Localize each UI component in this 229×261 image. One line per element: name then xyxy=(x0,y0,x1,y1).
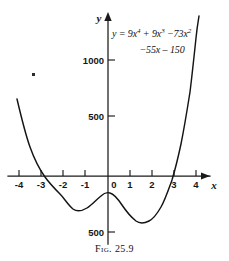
x-axis-label: x xyxy=(210,179,217,191)
equation-line-1: y = 9x4 + 9x3 −73x2 xyxy=(112,28,226,40)
x-tick-label-neg1: -1 xyxy=(81,179,90,190)
x-tick-label-1: 1 xyxy=(127,179,133,190)
y-tick-label-neg500: 500 xyxy=(88,227,104,238)
y-tick-label-500: 500 xyxy=(88,111,104,122)
x-tick-label-neg3: -3 xyxy=(37,179,45,190)
x-tick-label-neg2: -2 xyxy=(59,179,67,190)
equation-part-mid-2: −73x xyxy=(165,28,188,39)
equation-exponent-2: 2 xyxy=(188,27,191,35)
x-axis-arrowhead xyxy=(201,172,210,179)
equation-part-prefix: y = 9x xyxy=(112,28,137,39)
scan-artifact-speck xyxy=(32,73,35,76)
y-axis-arrowhead xyxy=(104,12,111,21)
x-tick-label-neg4: -4 xyxy=(15,179,24,190)
equation-line-2: −55x – 150 xyxy=(112,45,226,56)
figure-container: -4 -3 -2 -1 0 1 2 3 4 1000 500 500 y x y… xyxy=(0,0,229,261)
figure-caption: Fig. 25.9 xyxy=(0,243,229,254)
equation-annotation: y = 9x4 + 9x3 −73x2 −55x – 150 xyxy=(112,28,226,55)
x-tick-label-0: 0 xyxy=(111,179,116,190)
y-axis-ticks xyxy=(108,60,115,232)
x-tick-label-4: 4 xyxy=(193,179,199,190)
x-tick-label-2: 2 xyxy=(149,179,154,190)
y-tick-label-1000: 1000 xyxy=(83,55,104,66)
y-axis-label: y xyxy=(95,12,102,24)
equation-part-mid-1: + 9x xyxy=(140,28,161,39)
